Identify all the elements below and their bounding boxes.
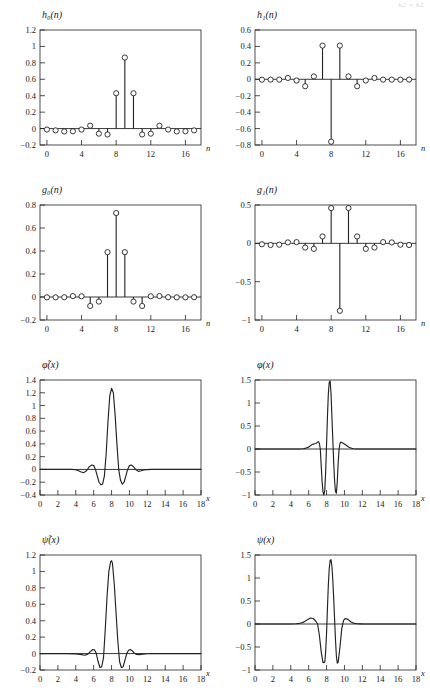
- stem-marker: [183, 129, 188, 134]
- stem-marker: [311, 74, 316, 79]
- stem-marker: [53, 128, 58, 133]
- stem-marker: [381, 240, 386, 245]
- stem-series: [259, 205, 411, 313]
- x-tick-label: 2: [271, 499, 275, 509]
- stem-marker: [70, 129, 75, 134]
- chart-panel-4: g₁(n)−1−0.500.50481216n: [215, 175, 430, 350]
- y-tick-label: −0.5: [236, 642, 251, 652]
- y-tick-label: 0.4: [25, 439, 36, 449]
- stem-marker: [122, 55, 127, 60]
- y-tick-label: 0: [247, 444, 251, 454]
- x-tick-label: 4: [289, 674, 294, 684]
- x-tick-label: 12: [362, 149, 371, 159]
- stem-marker: [381, 77, 386, 82]
- chart-panel-3: g₀(n)−0.200.20.40.60.80481216n: [0, 175, 215, 350]
- panel-title: φ(x): [257, 359, 274, 371]
- x-tick-label: 2: [56, 499, 60, 509]
- stem-marker: [320, 234, 325, 239]
- y-tick-label: −0.2: [21, 315, 36, 325]
- x-tick-label: 4: [79, 324, 84, 334]
- y-tick-label: 0.6: [25, 599, 36, 609]
- stem-marker: [44, 295, 49, 300]
- stem-marker: [372, 75, 377, 80]
- x-axis-label: x: [205, 668, 210, 678]
- y-tick-label: −0.2: [21, 477, 36, 487]
- plot-frame: [40, 555, 201, 670]
- x-tick-label: 0: [253, 674, 257, 684]
- x-axis-label: x: [420, 493, 425, 503]
- y-tick-label: 0.6: [25, 426, 36, 436]
- function-curve: [255, 381, 416, 495]
- stem-marker: [398, 77, 403, 82]
- chart-panel-1: h₀(n)−0.200.20.40.60.811.20481216n: [0, 0, 215, 175]
- y-tick-label: −0.4: [236, 107, 252, 117]
- y-tick-label: −1: [242, 665, 251, 675]
- x-tick-label: 8: [324, 499, 328, 509]
- stem-marker: [277, 77, 282, 82]
- stem-marker: [191, 128, 196, 133]
- chart-panel-2: h₁(n)−0.8−0.6−0.4−0.200.20.40.60481216n: [215, 0, 430, 175]
- y-tick-label: −0.2: [21, 665, 36, 675]
- stem-marker: [96, 299, 101, 304]
- y-tick-label: 0.5: [240, 421, 251, 431]
- x-tick-label: 12: [147, 149, 156, 159]
- y-tick-label: 1.5: [240, 375, 251, 385]
- x-axis-label: x: [205, 493, 210, 503]
- x-tick-label: 10: [340, 499, 349, 509]
- x-tick-label: 16: [394, 674, 403, 684]
- stem-marker: [337, 308, 342, 313]
- y-tick-label: 1.2: [25, 550, 36, 560]
- x-tick-label: 0: [260, 324, 264, 334]
- y-tick-label: −0.6: [236, 124, 251, 134]
- stem-marker: [148, 131, 153, 136]
- x-tick-label: 8: [329, 149, 333, 159]
- panel-title: h₀(n): [42, 9, 63, 21]
- stem-marker: [346, 74, 351, 79]
- plot-frame: [255, 555, 416, 670]
- stem-marker: [355, 84, 360, 89]
- y-tick-label: 1.4: [25, 375, 36, 385]
- x-tick-label: 8: [109, 674, 113, 684]
- x-tick-label: 10: [125, 499, 134, 509]
- stem-marker: [277, 242, 282, 247]
- x-tick-label: 0: [253, 499, 257, 509]
- y-tick-label: 0.5: [240, 596, 251, 606]
- x-tick-label: 4: [294, 149, 299, 159]
- x-tick-label: 0: [45, 149, 49, 159]
- x-tick-label: 4: [289, 499, 294, 509]
- chart-panel-8: ψ(x)−1−0.500.511.5024681012141618x: [215, 525, 430, 700]
- panel-title: ψ̃(x): [42, 534, 60, 546]
- y-tick-label: 1.2: [25, 388, 36, 398]
- x-tick-label: 0: [260, 149, 264, 159]
- stem-marker: [398, 242, 403, 247]
- stem-marker: [166, 127, 171, 132]
- x-tick-label: 10: [340, 674, 349, 684]
- y-tick-label: −1: [242, 315, 251, 325]
- x-tick-label: 0: [45, 324, 49, 334]
- y-tick-label: 0: [32, 649, 36, 659]
- function-curve: [40, 561, 201, 668]
- x-tick-label: 6: [307, 499, 311, 509]
- stem-marker: [363, 78, 368, 83]
- y-tick-label: 0: [32, 464, 36, 474]
- stem-marker: [346, 205, 351, 210]
- stem-marker: [355, 234, 360, 239]
- stem-marker: [70, 293, 75, 298]
- stem-marker: [406, 77, 411, 82]
- stem-marker: [79, 294, 84, 299]
- y-tick-label: 0: [247, 74, 251, 84]
- y-tick-label: 0: [247, 238, 251, 248]
- x-tick-label: 8: [109, 499, 113, 509]
- y-tick-label: 1.2: [25, 25, 36, 35]
- stem-marker: [294, 78, 299, 83]
- x-tick-label: 8: [329, 324, 333, 334]
- x-axis-label: n: [206, 318, 210, 328]
- x-tick-label: 16: [179, 499, 188, 509]
- stem-marker: [320, 43, 325, 48]
- y-tick-label: 0: [32, 124, 36, 134]
- stem-marker: [285, 75, 290, 80]
- stem-marker: [53, 295, 58, 300]
- stem-marker: [268, 242, 273, 247]
- stem-marker: [88, 123, 93, 128]
- y-tick-label: −0.2: [21, 140, 36, 150]
